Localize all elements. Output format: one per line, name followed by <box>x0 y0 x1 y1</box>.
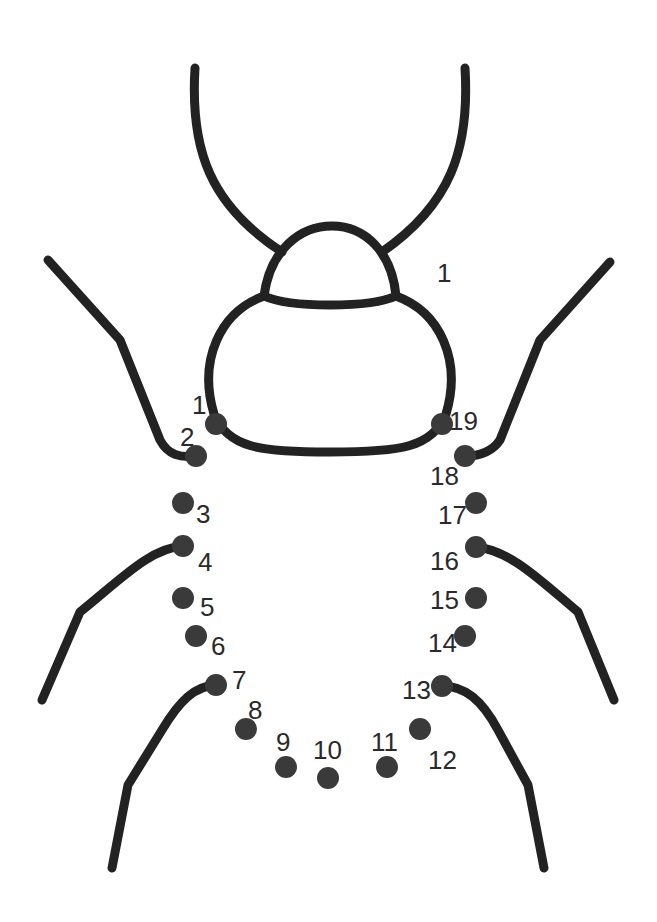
left-antenna <box>194 68 282 252</box>
right-front-leg <box>465 262 610 456</box>
left-front-leg <box>48 260 196 457</box>
dot-11[interactable] <box>376 756 398 778</box>
dot-14[interactable] <box>454 625 476 647</box>
dot-3[interactable] <box>172 492 194 514</box>
beetle-thorax <box>209 296 451 452</box>
dot-label-7: 7 <box>232 665 246 695</box>
dot-label-3: 3 <box>196 499 210 529</box>
beetle-head <box>264 226 396 296</box>
dot-label-12: 12 <box>428 745 457 775</box>
dot-label-8: 8 <box>248 695 262 725</box>
dot-label-9: 9 <box>276 727 290 757</box>
stray-number-label: 1 <box>437 258 451 288</box>
dot-5[interactable] <box>172 587 194 609</box>
dot-15[interactable] <box>465 587 487 609</box>
dot-label-5: 5 <box>200 592 214 622</box>
dot-label-6: 6 <box>211 631 225 661</box>
dot-4[interactable] <box>172 535 194 557</box>
dot-1[interactable] <box>205 413 227 435</box>
dot-label-4: 4 <box>198 547 212 577</box>
left-middle-leg <box>42 546 183 700</box>
dot-label-18: 18 <box>430 461 459 491</box>
right-antenna <box>382 68 466 252</box>
dot-label-13: 13 <box>402 675 431 705</box>
dot-12[interactable] <box>409 718 431 740</box>
dot-label-14: 14 <box>428 628 457 658</box>
dot-10[interactable] <box>317 767 339 789</box>
right-back-leg <box>442 686 544 868</box>
dot-16[interactable] <box>465 536 487 558</box>
right-middle-leg <box>476 547 614 700</box>
dot-13[interactable] <box>431 675 453 697</box>
dot-6[interactable] <box>185 625 207 647</box>
dot-to-dot-canvas: 12345678910111213141516171819 1 <box>0 0 657 922</box>
dot-label-19: 19 <box>449 406 478 436</box>
dot-label-16: 16 <box>430 546 459 576</box>
dot-17[interactable] <box>465 492 487 514</box>
dot-9[interactable] <box>275 756 297 778</box>
dot-label-15: 15 <box>430 585 459 615</box>
dot-label-11: 11 <box>371 727 398 757</box>
dot-label-1: 1 <box>192 390 206 420</box>
dot-label-10: 10 <box>313 735 342 765</box>
dot-label-17: 17 <box>438 500 467 530</box>
left-back-leg <box>112 685 216 868</box>
dot-7[interactable] <box>205 674 227 696</box>
dot-label-2: 2 <box>180 422 194 452</box>
